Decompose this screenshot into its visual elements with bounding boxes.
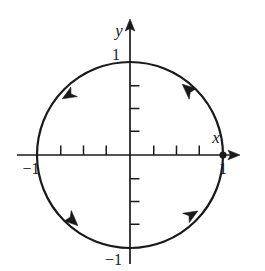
axes-group [17, 19, 240, 264]
unit-circle-figure: x y 1 −1 1 −1 [0, 0, 265, 271]
x-tick-label-one: 1 [219, 160, 227, 177]
x-tick-label-negative-one: −1 [22, 160, 39, 177]
x-axis-label: x [211, 128, 220, 147]
y-tick-label-negative-one: −1 [105, 251, 122, 268]
plot-canvas: x y 1 −1 1 −1 [0, 0, 265, 271]
y-axis-label: y [113, 21, 123, 40]
y-tick-label-one: 1 [112, 46, 120, 63]
point-marker-one-zero [219, 151, 226, 158]
